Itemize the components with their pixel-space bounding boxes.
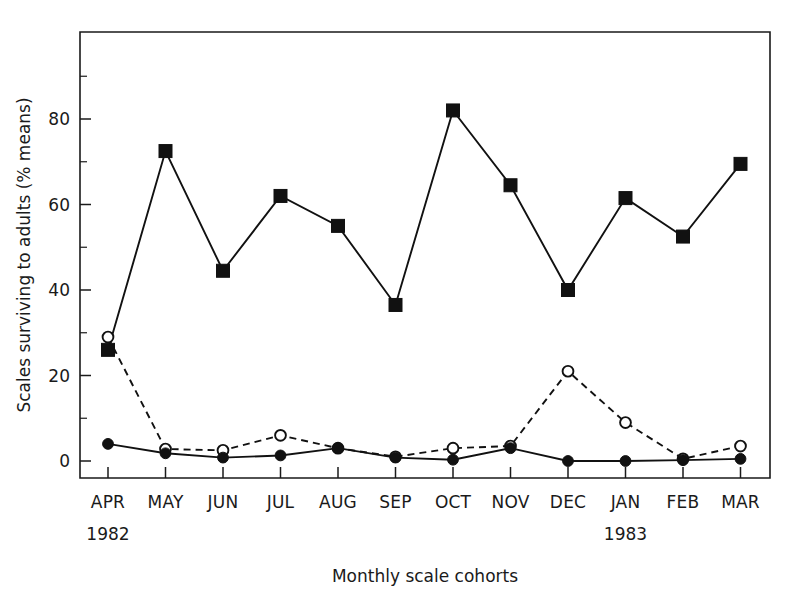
data-point-filled-circle [620,456,631,467]
y-tick-label: 20 [48,366,70,386]
data-point-filled-square [677,230,690,243]
chart-figure: 020406080APRMAYJUNJULAUGSEPOCTNOVDECJANF… [0,0,794,595]
x-axis-year-label: 1982 [86,524,129,544]
x-tick-label: JUL [266,492,295,512]
data-point-filled-square [734,157,747,170]
data-point-filled-square [619,192,632,205]
data-point-open-circle [448,443,459,454]
x-axis-title: Monthly scale cohorts [332,566,518,586]
data-point-filled-circle [448,454,459,465]
axis-frame [80,32,770,478]
x-tick-label: FEB [667,492,700,512]
data-point-open-circle [563,366,574,377]
x-tick-label: MAR [721,492,760,512]
x-tick-label: JUN [207,492,239,512]
series-open-circle-dashed [103,332,746,465]
data-point-filled-circle [390,452,401,463]
x-tick-label: JAN [610,492,641,512]
data-point-filled-square [389,298,402,311]
x-axis-year-label: 1983 [604,524,647,544]
data-point-filled-square [159,145,172,158]
data-point-filled-circle [103,439,114,450]
plot-frame [80,32,770,478]
data-point-filled-circle [735,453,746,464]
data-point-filled-square [274,189,287,202]
data-point-open-circle [103,332,114,343]
data-point-filled-circle [218,452,229,463]
y-tick-label: 60 [48,195,70,215]
x-tick-label: APR [91,492,125,512]
data-point-open-circle [275,430,286,441]
line-chart: 020406080APRMAYJUNJULAUGSEPOCTNOVDECJANF… [0,0,794,595]
y-tick-label: 40 [48,280,70,300]
x-tick-label: DEC [550,492,586,512]
data-point-filled-circle [505,443,516,454]
x-axis-year-labels: 19821983 [86,524,647,544]
x-axis-ticks: APRMAYJUNJULAUGSEPOCTNOVDECJANFEBMAR [91,467,760,512]
y-tick-label: 0 [59,451,70,471]
y-axis-ticks: 020406080 [48,76,91,471]
y-tick-label: 80 [48,109,70,129]
data-point-filled-circle [678,455,689,466]
x-tick-label: OCT [435,492,472,512]
y-axis-title: Scales surviving to adults (% means) [14,97,34,412]
data-point-filled-circle [275,450,286,461]
series-line [108,110,741,349]
data-point-filled-circle [160,448,171,459]
data-point-open-circle [735,441,746,452]
x-tick-label: MAY [148,492,184,512]
x-tick-label: AUG [319,492,357,512]
data-point-filled-square [562,284,575,297]
data-point-open-circle [620,417,631,428]
data-point-filled-circle [563,456,574,467]
data-point-filled-square [447,104,460,117]
data-point-filled-square [217,264,230,277]
data-point-filled-circle [333,443,344,454]
data-point-filled-square [504,179,517,192]
series-filled-square-solid [102,104,748,356]
data-point-filled-square [332,219,345,232]
data-point-filled-square [102,343,115,356]
x-tick-label: NOV [491,492,529,512]
series-line [108,337,741,459]
x-tick-label: SEP [379,492,411,512]
